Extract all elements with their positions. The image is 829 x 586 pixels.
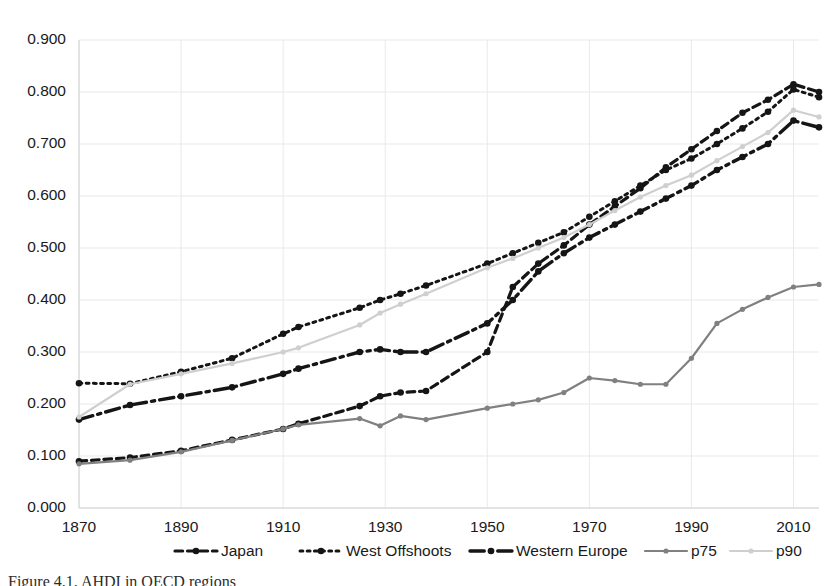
y-tick-label: 0.500 — [27, 238, 66, 255]
legend-item-label: p75 — [691, 542, 717, 559]
data-point-marker — [357, 416, 362, 421]
data-point-marker — [76, 414, 81, 419]
data-point-marker — [612, 378, 617, 383]
data-point-marker — [296, 345, 301, 350]
legend-item-p75[interactable]: p75 — [645, 542, 717, 559]
data-point-marker — [76, 461, 81, 466]
x-tick-label: 1870 — [62, 518, 97, 535]
data-point-marker — [688, 182, 695, 189]
legend-swatch-marker — [488, 548, 495, 555]
data-point-marker — [535, 268, 542, 275]
legend-swatch-marker — [663, 548, 668, 553]
data-point-marker — [485, 406, 490, 411]
y-axis-tick-labels: 0.0000.1000.2000.3000.4000.5000.6000.700… — [27, 30, 66, 515]
data-point-marker — [739, 110, 746, 117]
legend-item-western-europe[interactable]: Western Europe — [470, 542, 628, 559]
legend-swatch-marker — [748, 548, 753, 553]
data-point-marker — [178, 371, 183, 376]
data-point-marker — [423, 349, 430, 356]
data-point-marker — [230, 438, 235, 443]
data-point-marker — [280, 331, 287, 338]
legend-item-label: p90 — [776, 542, 802, 559]
data-point-marker — [536, 245, 541, 250]
data-point-marker — [397, 389, 404, 396]
data-point-marker — [178, 393, 185, 400]
data-point-marker — [509, 284, 516, 291]
data-point-marker — [356, 349, 363, 356]
legend-swatch-marker — [193, 548, 200, 555]
series-p75 — [76, 282, 821, 467]
data-point-marker — [510, 256, 515, 261]
data-point-marker — [561, 235, 566, 240]
y-tick-label: 0.400 — [27, 290, 66, 307]
y-tick-label: 0.000 — [27, 498, 66, 515]
data-point-marker — [509, 250, 516, 257]
data-point-marker — [484, 320, 491, 327]
data-point-marker — [178, 449, 183, 454]
legend-item-label: Western Europe — [516, 542, 628, 559]
data-point-marker — [295, 324, 302, 331]
line-chart: 0.0000.1000.2000.3000.4000.5000.6000.700… — [0, 0, 829, 586]
data-point-marker — [688, 155, 695, 162]
legend-item-west-offshoots[interactable]: West Offshoots — [300, 542, 452, 559]
data-point-marker — [586, 234, 593, 241]
x-tick-label: 2010 — [776, 518, 811, 535]
gridlines — [79, 40, 819, 508]
data-point-marker — [637, 208, 644, 215]
data-point-marker — [397, 349, 404, 356]
data-point-marker — [663, 183, 668, 188]
series-p90 — [76, 108, 821, 420]
data-point-marker — [561, 390, 566, 395]
data-point-marker — [612, 198, 619, 205]
data-point-marker — [714, 141, 721, 148]
data-point-marker — [765, 295, 770, 300]
data-point-marker — [281, 349, 286, 354]
data-point-marker — [535, 260, 542, 267]
data-point-marker — [561, 242, 568, 249]
data-point-marker — [791, 284, 796, 289]
series-line — [79, 84, 819, 461]
y-tick-label: 0.600 — [27, 186, 66, 203]
data-point-marker — [637, 182, 644, 189]
data-point-marker — [714, 167, 721, 174]
data-point-marker — [535, 240, 542, 247]
data-point-marker — [423, 282, 430, 289]
data-point-marker — [357, 322, 362, 327]
series-line — [79, 110, 819, 417]
data-point-marker — [356, 403, 363, 410]
data-point-marker — [127, 382, 132, 387]
x-tick-label: 1930 — [368, 518, 403, 535]
legend-item-japan[interactable]: Japan — [175, 542, 263, 559]
data-point-marker — [765, 97, 772, 104]
data-point-marker — [561, 250, 568, 257]
legend-item-p90[interactable]: p90 — [730, 542, 802, 559]
x-tick-label: 1910 — [266, 518, 301, 535]
data-series-group — [76, 81, 823, 467]
data-point-marker — [423, 388, 430, 395]
legend-item-label: West Offshoots — [346, 542, 452, 559]
data-point-marker — [714, 321, 719, 326]
data-point-marker — [816, 114, 821, 119]
data-point-marker — [739, 125, 746, 132]
legend-item-label: Japan — [221, 542, 263, 559]
data-point-marker — [587, 222, 592, 227]
data-point-marker — [638, 382, 643, 387]
data-point-marker — [377, 297, 384, 304]
data-point-marker — [423, 291, 428, 296]
data-point-marker — [663, 382, 668, 387]
data-point-marker — [485, 265, 490, 270]
data-point-marker — [714, 158, 719, 163]
data-point-marker — [356, 305, 363, 312]
data-point-marker — [663, 195, 670, 202]
data-point-marker — [816, 94, 823, 101]
data-point-marker — [398, 413, 403, 418]
data-point-marker — [484, 349, 491, 356]
data-point-marker — [740, 307, 745, 312]
data-point-marker — [689, 356, 694, 361]
data-point-marker — [790, 117, 797, 124]
data-point-marker — [281, 426, 286, 431]
chart-legend: JapanWest OffshootsWestern Europep75p90 — [175, 542, 802, 559]
data-point-marker — [740, 144, 745, 149]
x-axis-tick-labels: 18701890191019301950197019902010 — [62, 518, 811, 535]
data-point-marker — [587, 375, 592, 380]
